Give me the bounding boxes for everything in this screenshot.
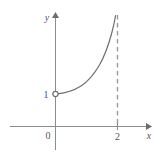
y-tick-label-1: 1 — [44, 89, 49, 100]
y-axis-label: y — [44, 12, 50, 23]
function-graph-figure: y x 0 1 2 — [0, 0, 160, 157]
x-axis-arrowhead — [146, 123, 152, 130]
origin-label: 0 — [46, 130, 51, 141]
plot-canvas: y x 0 1 2 — [0, 0, 160, 157]
function-curve — [56, 16, 116, 95]
x-tick-label-2: 2 — [115, 131, 120, 142]
open-circle-point — [53, 91, 58, 96]
x-axis-label: x — [146, 130, 152, 141]
y-axis-arrowhead — [52, 12, 59, 18]
